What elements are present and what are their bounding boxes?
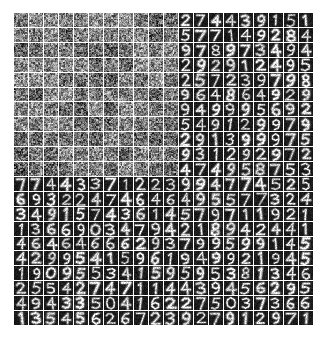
tile-bitmap bbox=[194, 311, 208, 325]
tile-bitmap bbox=[119, 43, 133, 57]
tile-bitmap bbox=[239, 311, 253, 325]
tile-bitmap bbox=[134, 237, 148, 251]
tile-bitmap bbox=[239, 192, 253, 206]
tile-bitmap bbox=[254, 222, 268, 236]
tile-bitmap bbox=[284, 117, 298, 131]
tile-bitmap bbox=[284, 43, 298, 57]
digit-tile bbox=[104, 177, 118, 191]
tile-bitmap bbox=[74, 266, 88, 280]
digit-tile bbox=[284, 58, 298, 72]
tile-bitmap bbox=[179, 43, 193, 57]
tile-bitmap bbox=[74, 147, 88, 161]
tile-bitmap bbox=[179, 132, 193, 146]
digit-tile bbox=[179, 177, 193, 191]
tile-bitmap bbox=[149, 73, 163, 87]
noise-tile bbox=[119, 102, 133, 116]
tile-bitmap bbox=[284, 73, 298, 87]
tile-bitmap bbox=[284, 237, 298, 251]
noise-tile bbox=[134, 162, 148, 176]
tile-bitmap bbox=[194, 296, 208, 310]
digit-tile bbox=[179, 281, 193, 295]
tile-bitmap bbox=[239, 296, 253, 310]
tile-bitmap bbox=[224, 251, 238, 265]
digit-tile bbox=[239, 147, 253, 161]
noise-tile bbox=[14, 58, 28, 72]
noise-tile bbox=[14, 28, 28, 42]
digit-tile bbox=[209, 88, 223, 102]
noise-tile bbox=[104, 88, 118, 102]
tile-bitmap bbox=[74, 192, 88, 206]
noise-tile bbox=[59, 147, 73, 161]
tile-bitmap bbox=[254, 88, 268, 102]
tile-bitmap bbox=[254, 117, 268, 131]
tile-bitmap bbox=[209, 117, 223, 131]
tile-bitmap bbox=[194, 177, 208, 191]
tile-bitmap bbox=[74, 88, 88, 102]
tile-bitmap bbox=[284, 102, 298, 116]
digit-tile bbox=[44, 222, 58, 236]
tile-bitmap bbox=[194, 28, 208, 42]
digit-tile bbox=[149, 266, 163, 280]
digit-tile bbox=[299, 147, 313, 161]
tile-bitmap bbox=[89, 192, 103, 206]
digit-tile bbox=[224, 177, 238, 191]
digit-tile bbox=[194, 43, 208, 57]
tile-bitmap bbox=[179, 207, 193, 221]
digit-tile bbox=[239, 177, 253, 191]
tile-bitmap bbox=[14, 311, 28, 325]
tile-bitmap bbox=[149, 132, 163, 146]
noise-tile bbox=[164, 88, 178, 102]
tile-bitmap bbox=[299, 102, 313, 116]
digit-tile bbox=[209, 58, 223, 72]
tile-bitmap bbox=[179, 117, 193, 131]
digit-tile bbox=[299, 132, 313, 146]
digit-tile bbox=[269, 281, 283, 295]
tile-bitmap bbox=[284, 177, 298, 191]
tile-bitmap bbox=[299, 43, 313, 57]
digit-tile bbox=[164, 207, 178, 221]
digit-tile bbox=[149, 237, 163, 251]
noise-tile bbox=[29, 13, 43, 27]
tile-bitmap bbox=[239, 132, 253, 146]
tile-bitmap bbox=[179, 222, 193, 236]
tile-bitmap bbox=[119, 281, 133, 295]
digit-tile bbox=[284, 43, 298, 57]
digit-tile bbox=[269, 73, 283, 87]
digit-tile bbox=[44, 296, 58, 310]
tile-bitmap bbox=[59, 117, 73, 131]
digit-tile bbox=[59, 177, 73, 191]
digit-tile bbox=[239, 237, 253, 251]
tile-bitmap bbox=[299, 132, 313, 146]
digit-tile bbox=[254, 88, 268, 102]
digit-tile bbox=[224, 251, 238, 265]
tile-bitmap bbox=[194, 192, 208, 206]
noise-tile bbox=[134, 117, 148, 131]
tile-bitmap bbox=[239, 73, 253, 87]
tile-bitmap bbox=[179, 102, 193, 116]
digit-tile bbox=[194, 132, 208, 146]
noise-tile bbox=[29, 58, 43, 72]
digit-tile bbox=[239, 73, 253, 87]
tile-bitmap bbox=[164, 102, 178, 116]
noise-tile bbox=[164, 162, 178, 176]
noise-tile bbox=[134, 132, 148, 146]
digit-tile bbox=[149, 251, 163, 265]
tile-bitmap bbox=[89, 28, 103, 42]
tile-bitmap bbox=[149, 43, 163, 57]
tile-bitmap bbox=[44, 222, 58, 236]
digit-tile bbox=[74, 207, 88, 221]
digit-tile bbox=[209, 13, 223, 27]
digit-tile bbox=[269, 296, 283, 310]
tile-bitmap bbox=[254, 177, 268, 191]
digit-tile bbox=[284, 132, 298, 146]
digit-tile bbox=[179, 147, 193, 161]
digit-tile bbox=[239, 266, 253, 280]
tile-bitmap bbox=[14, 132, 28, 146]
digit-tile bbox=[209, 207, 223, 221]
tile-bitmap bbox=[119, 222, 133, 236]
digit-tile bbox=[284, 207, 298, 221]
tile-bitmap bbox=[209, 222, 223, 236]
tile-bitmap bbox=[194, 162, 208, 176]
tile-bitmap bbox=[119, 296, 133, 310]
tile-bitmap bbox=[29, 73, 43, 87]
